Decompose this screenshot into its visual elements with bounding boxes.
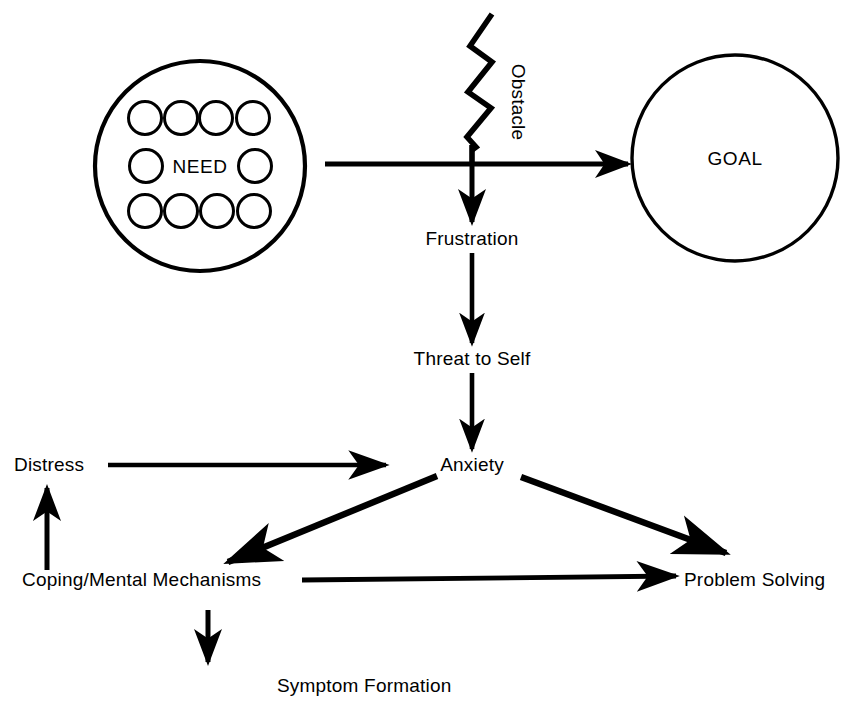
coping-mental-mechanisms-label: Coping/Mental Mechanisms [22,570,261,589]
symptom-formation-label: Symptom Formation [277,676,451,695]
need-inner-circle [239,150,272,183]
need-inner-circle [129,195,162,228]
anxiety-label: Anxiety [440,455,504,474]
need-label: NEED [172,157,227,176]
goal-label: GOAL [707,149,762,168]
diagram-canvas: NEED GOAL Obstacle Frustration Threat to… [0,0,856,705]
edge-anxiety-to-problem-solving [521,477,726,553]
need-inner-circle [238,195,271,228]
need-inner-circle [201,195,234,228]
frustration-label: Frustration [425,229,518,248]
need-inner-circle [130,150,163,183]
need-inner-circle [165,102,198,135]
need-inner-circle [237,102,270,135]
need-inner-circle [200,102,233,135]
problem-solving-label: Problem Solving [684,570,825,589]
need-inner-circle [129,102,162,135]
need-inner-circle [165,195,198,228]
distress-label: Distress [14,455,84,474]
threat-to-self-label: Threat to Self [414,349,531,368]
obstacle-zigzag-icon [467,14,492,150]
obstacle-label: Obstacle [509,64,528,141]
edge-anxiety-to-coping [228,476,437,562]
edge-coping-to-problem-solving [302,576,676,580]
